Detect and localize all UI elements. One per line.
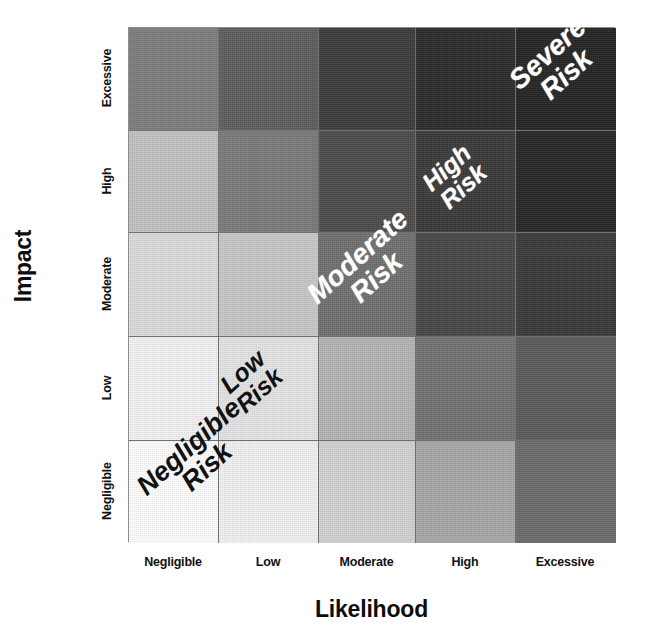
- risk-matrix-grid: [128, 27, 615, 542]
- risk-cell-high-high: [416, 131, 516, 233]
- x-axis-tick-labels: Negligible Low Moderate High Excessive: [128, 552, 615, 572]
- x-axis-tick-label-excessive: Excessive: [515, 552, 615, 572]
- y-axis-title: Impact: [6, 216, 40, 316]
- risk-cell-excessive-moderate: [319, 28, 416, 131]
- risk-cell-high-moderate: [319, 131, 416, 233]
- x-axis-tick-label-negligible: Negligible: [128, 552, 218, 572]
- risk-cell-negligible-negligible: [129, 441, 219, 543]
- risk-cell-high-low: [219, 131, 319, 233]
- risk-cell-negligible-high: [416, 441, 516, 543]
- y-axis-tick-label-excessive: Excessive: [98, 26, 116, 130]
- risk-cell-low-low: [219, 337, 319, 441]
- risk-cell-moderate-low: [219, 233, 319, 337]
- risk-matrix-figure: Impact Excessive High Moderate Low Negli…: [0, 0, 649, 639]
- risk-cell-negligible-low: [219, 441, 319, 543]
- x-axis-tick-label-high: High: [415, 552, 515, 572]
- risk-cell-low-negligible: [129, 337, 219, 441]
- risk-cell-excessive-high: [416, 28, 516, 131]
- y-axis-tick-label-moderate: Moderate: [98, 232, 116, 336]
- y-axis-tick-label-high: High: [98, 129, 116, 233]
- risk-cell-excessive-excessive: [516, 28, 616, 131]
- risk-cell-excessive-low: [219, 28, 319, 131]
- x-axis-tick-label-moderate: Moderate: [318, 552, 415, 572]
- risk-cell-negligible-excessive: [516, 441, 616, 543]
- risk-cell-negligible-moderate: [319, 441, 416, 543]
- risk-cell-low-high: [416, 337, 516, 441]
- risk-cell-low-excessive: [516, 337, 616, 441]
- x-axis-tick-label-low: Low: [218, 552, 318, 572]
- y-axis-tick-label-low: Low: [98, 336, 116, 440]
- risk-cell-moderate-high: [416, 233, 516, 337]
- risk-cell-moderate-excessive: [516, 233, 616, 337]
- risk-cell-high-negligible: [129, 131, 219, 233]
- risk-cell-moderate-moderate: [319, 233, 416, 337]
- risk-cell-high-excessive: [516, 131, 616, 233]
- x-axis-title: Likelihood: [128, 596, 615, 623]
- risk-cell-moderate-negligible: [129, 233, 219, 337]
- risk-cell-excessive-negligible: [129, 28, 219, 131]
- risk-cell-low-moderate: [319, 337, 416, 441]
- y-axis-tick-label-negligible: Negligible: [98, 439, 116, 543]
